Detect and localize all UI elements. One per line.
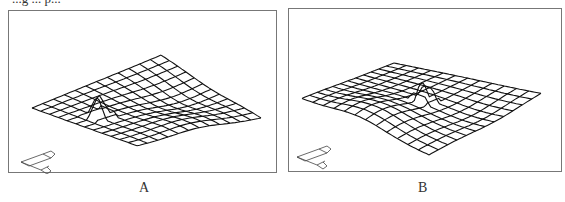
panel-label-b: B: [418, 180, 427, 196]
view-orientation-icon: [21, 151, 55, 174]
surface-panel-b: [288, 8, 562, 172]
view-orientation-icon: [297, 146, 331, 169]
panel-label-a: A: [139, 180, 149, 196]
surface-panel-a: [8, 10, 277, 173]
caption-fragment: ...g ... p...: [12, 0, 61, 7]
wireframe-surface-b: [289, 9, 563, 173]
mesh-grid: [32, 55, 261, 146]
mesh-grid: [302, 63, 541, 155]
wireframe-surface-a: [9, 11, 278, 174]
